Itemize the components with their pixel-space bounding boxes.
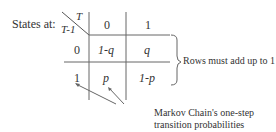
arrow-annotation-line2: transition probabilities <box>154 120 244 130</box>
cell-0-1: q <box>144 44 150 56</box>
arrow-annotation-line1: Markov Chain's one-step <box>154 108 254 118</box>
brace-annotation: Rows must add up to 1 <box>183 56 275 66</box>
cell-0-0: 1-q <box>98 44 114 56</box>
row-header-1: 1 <box>74 72 80 84</box>
arrow-to-p <box>76 84 116 104</box>
corner-row-label: T-1 <box>61 24 75 35</box>
states-at-label: States at: <box>12 18 56 30</box>
row-header-0: 0 <box>74 44 80 56</box>
cell-1-1: 1-p <box>139 72 155 84</box>
column-header-0: 0 <box>104 19 110 31</box>
row-sum-brace <box>171 35 181 85</box>
cell-1-0: p <box>103 72 109 84</box>
column-header-1: 1 <box>145 19 151 31</box>
corner-column-label: T <box>76 11 82 22</box>
